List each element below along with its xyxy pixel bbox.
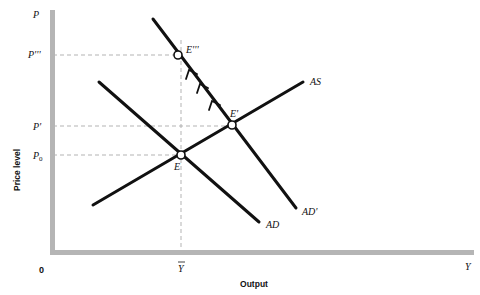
label-p-prime: P' xyxy=(32,121,42,132)
label-p-triple-prime: P''' xyxy=(27,49,41,60)
as-curve xyxy=(93,82,303,205)
label-e-triple-prime: E''' xyxy=(185,44,199,55)
x-axis-symbol: Y xyxy=(465,261,472,272)
y-axis-symbol: P xyxy=(32,9,39,20)
equilibrium-points xyxy=(174,51,236,159)
as-ad-diagram: P P''' P' P0 Price level 0 Y Y Output AS… xyxy=(0,0,480,295)
guide-lines xyxy=(53,40,232,256)
label-p0: P0 xyxy=(32,150,43,163)
label-ad-prime: AD' xyxy=(301,206,318,217)
ad-prime-curve xyxy=(153,19,296,208)
x-axis xyxy=(50,250,474,255)
y-axis-title: Price level xyxy=(12,149,22,191)
axes xyxy=(50,10,474,255)
label-e-prime: E' xyxy=(229,108,239,119)
point-e xyxy=(177,151,185,159)
point-e-prime xyxy=(228,121,236,129)
point-e-triple-prime xyxy=(174,51,182,59)
label-ad: AD xyxy=(265,219,280,230)
y-bar-text: Y xyxy=(178,263,185,274)
label-as: AS xyxy=(309,76,321,87)
adjustment-arrows xyxy=(186,70,220,110)
origin-label: 0 xyxy=(39,265,44,275)
y-axis xyxy=(50,10,55,253)
label-e: E xyxy=(173,161,180,172)
x-axis-title: Output xyxy=(240,279,268,289)
label-y-bar: Y xyxy=(178,262,185,274)
